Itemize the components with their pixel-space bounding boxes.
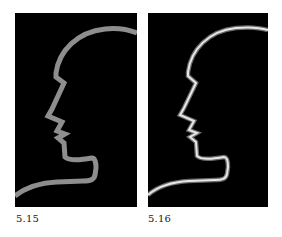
figure-5-15 xyxy=(15,13,137,207)
profile-illustration-flat xyxy=(15,13,137,207)
figure-5-16 xyxy=(148,13,268,207)
profile-illustration-beveled xyxy=(148,13,268,207)
figure-caption-5-15: 5.15 xyxy=(16,213,39,224)
figure-caption-5-16: 5.16 xyxy=(148,213,171,224)
